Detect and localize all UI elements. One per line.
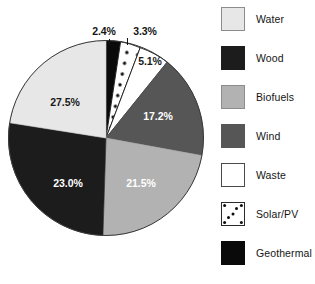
wind-swatch-icon <box>221 124 245 148</box>
pie-slice-wood[interactable] <box>8 123 106 236</box>
legend-label-waste: Waste <box>256 169 286 181</box>
biofuels-swatch-icon <box>221 85 245 109</box>
legend-label-geothermal: Geothermal <box>256 247 312 259</box>
legend-item-water[interactable]: Water <box>221 6 284 32</box>
pie-plot-area: 2.4% 3.3% 5.1% 17.2% 21.5% 23.0% 27.5% <box>0 0 212 284</box>
legend-item-biofuels[interactable]: Biofuels <box>221 84 294 110</box>
legend-label-water: Water <box>256 13 284 25</box>
geothermal-swatch-icon <box>221 241 245 265</box>
legend-label-wind: Wind <box>256 130 280 142</box>
legend-label-solar-pv: Solar/PV <box>256 208 298 220</box>
legend-item-geothermal[interactable]: Geothermal <box>221 240 312 266</box>
chart-legend: Water Wood Biofuels <box>221 0 315 284</box>
water-swatch-icon <box>221 7 245 31</box>
pie-chart-figure: 2.4% 3.3% 5.1% 17.2% 21.5% 23.0% 27.5% W… <box>0 0 315 284</box>
waste-swatch-icon <box>221 163 245 187</box>
pie-slice-water[interactable] <box>10 40 106 138</box>
leader-line-solarpv <box>127 38 128 45</box>
legend-item-solar-pv[interactable]: Solar/PV <box>221 201 298 227</box>
legend-item-wind[interactable]: Wind <box>221 123 280 149</box>
legend-item-wood[interactable]: Wood <box>221 45 284 71</box>
pie-slice-biofuels[interactable] <box>103 138 202 235</box>
legend-item-waste[interactable]: Waste <box>221 162 286 188</box>
legend-label-biofuels: Biofuels <box>256 91 294 103</box>
wood-swatch-icon <box>221 46 245 70</box>
leader-line-geothermal <box>109 39 110 45</box>
solar-pv-swatch-icon <box>221 202 245 226</box>
legend-label-wood: Wood <box>256 52 284 64</box>
pie-svg <box>0 0 212 284</box>
